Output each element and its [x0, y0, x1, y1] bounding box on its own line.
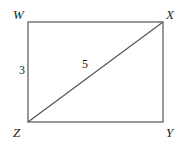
diagonal-zx — [28, 22, 163, 122]
vertex-label-w: W — [13, 8, 24, 21]
vertex-label-y: Y — [166, 126, 173, 139]
vertex-label-z: Z — [13, 126, 20, 139]
geometry-figure: W X Z Y 3 5 — [0, 0, 184, 147]
vertex-label-x: X — [166, 8, 174, 21]
figure-canvas — [0, 0, 184, 147]
measure-label-diagonal-zx: 5 — [82, 58, 88, 70]
measure-label-side-wz: 3 — [19, 64, 25, 76]
